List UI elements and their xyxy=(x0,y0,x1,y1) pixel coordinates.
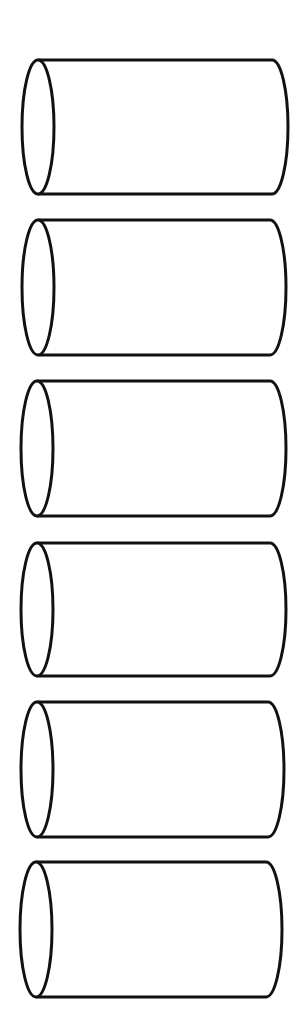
cylinder-diagram xyxy=(0,0,301,1024)
cylinder-body xyxy=(38,220,286,355)
cylinder-body xyxy=(37,702,284,837)
cylinder-end-ellipse xyxy=(22,60,54,194)
cylinder-6 xyxy=(20,862,282,997)
cylinder-3 xyxy=(21,381,286,516)
cylinder-body xyxy=(38,60,288,194)
cylinder-end-ellipse xyxy=(22,220,54,355)
cylinder-end-ellipse xyxy=(20,862,52,997)
cylinder-end-ellipse xyxy=(21,702,53,837)
cylinder-body xyxy=(37,381,286,516)
cylinder-4 xyxy=(21,543,286,676)
cylinder-end-ellipse xyxy=(21,543,53,676)
cylinder-5 xyxy=(21,702,284,837)
cylinder-1 xyxy=(22,60,288,194)
cylinder-end-ellipse xyxy=(21,381,53,516)
cylinder-body xyxy=(36,862,282,997)
cylinder-2 xyxy=(22,220,286,355)
cylinder-body xyxy=(37,543,286,676)
